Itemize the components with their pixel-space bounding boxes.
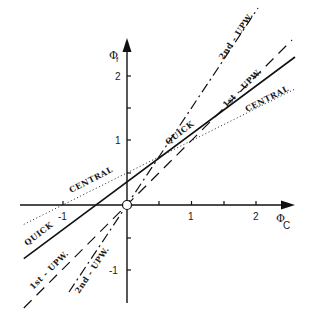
x-tick-label: 1 [188, 211, 194, 222]
x-axis-label-sub: C [283, 220, 290, 231]
y-axis-arrow-icon [123, 38, 132, 52]
y-axis-label-sub: f [116, 55, 119, 64]
y-tick-label: -1 [109, 265, 118, 276]
label-2nd-upw-lower: 2nd - UPW. [72, 244, 111, 295]
x-axis-arrow-icon [281, 201, 295, 210]
nvd-diagram: -1 1 2 Φ C 2 1 -1 Φ f 2nd - UPW. 1st - U… [0, 0, 309, 325]
label-central-left: CENTRAL [67, 164, 114, 195]
label-quick-lower: QUICK [22, 219, 55, 247]
x-tick-label: -1 [58, 211, 67, 222]
quick-curve [24, 57, 295, 259]
label-2nd-upw-upper: 2nd - UPW. [216, 10, 255, 61]
origin-marker-icon [123, 201, 132, 210]
x-tick-label: 2 [253, 211, 259, 222]
y-tick-label: 2 [115, 71, 121, 82]
label-1st-upw-lower: 1st - UPW. [27, 248, 70, 291]
y-tick-label: 1 [115, 135, 121, 146]
label-central-upper: CENTRAL [243, 83, 290, 114]
x-axis: -1 1 2 Φ C [20, 201, 295, 232]
